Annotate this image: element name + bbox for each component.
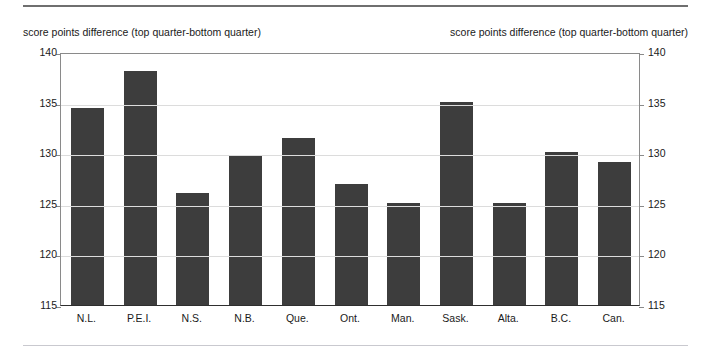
x-axis-label-can: Can. bbox=[587, 312, 640, 325]
y-axis-label-right-130: 130 bbox=[648, 148, 688, 159]
bar-pei bbox=[124, 71, 157, 305]
bar-sask bbox=[440, 102, 473, 305]
y-axis-label-left-135: 135 bbox=[17, 98, 57, 109]
bar-bc bbox=[545, 152, 578, 305]
y-axis-label-right-125: 125 bbox=[648, 199, 688, 210]
x-axis-label-nb: N.B. bbox=[218, 312, 271, 325]
tick-right-135 bbox=[639, 105, 644, 106]
y-axis-label-left-120: 120 bbox=[17, 249, 57, 260]
tick-right-140 bbox=[639, 54, 644, 55]
x-axis-label-bc: B.C. bbox=[535, 312, 588, 325]
y-axis-label-right-135: 135 bbox=[648, 98, 688, 109]
y-axis-label-left-140: 140 bbox=[17, 47, 57, 58]
y-axis-label-right-115: 115 bbox=[648, 300, 688, 311]
bar-nb bbox=[229, 156, 262, 305]
bar-can bbox=[598, 162, 631, 305]
x-axis-label-ns: N.S. bbox=[165, 312, 218, 325]
tick-right-130 bbox=[639, 155, 644, 156]
plot-area bbox=[60, 53, 640, 306]
y-axis-label-right-120: 120 bbox=[648, 249, 688, 260]
bottom-divider-rule bbox=[23, 345, 688, 346]
bar-man bbox=[387, 203, 420, 305]
gridline-135 bbox=[61, 105, 639, 106]
x-axis-label-alta: Alta. bbox=[482, 312, 535, 325]
tick-right-115 bbox=[639, 307, 644, 308]
tick-right-120 bbox=[639, 256, 644, 257]
y-axis-label-right-140: 140 bbox=[648, 47, 688, 58]
x-axis-label-ont: Ont. bbox=[324, 312, 377, 325]
gridline-125 bbox=[61, 206, 639, 207]
x-axis-label-sask: Sask. bbox=[429, 312, 482, 325]
bar-ns bbox=[176, 193, 209, 305]
y-axis-label-left-130: 130 bbox=[17, 148, 57, 159]
bar-ont bbox=[335, 184, 368, 305]
tick-right-125 bbox=[639, 206, 644, 207]
bar-que bbox=[282, 138, 315, 305]
x-axis-label-man: Man. bbox=[376, 312, 429, 325]
x-axis-label-nl: N.L. bbox=[60, 312, 113, 325]
y-axis-label-left-125: 125 bbox=[17, 199, 57, 210]
y-axis-label-left-115: 115 bbox=[17, 300, 57, 311]
bar-alta bbox=[493, 203, 526, 305]
x-axis-label-pei: P.E.I. bbox=[113, 312, 166, 325]
x-axis-label-que: Que. bbox=[271, 312, 324, 325]
gridline-130 bbox=[61, 155, 639, 156]
chart-page: score points difference (top quarter-bot… bbox=[0, 0, 711, 352]
plot-wrapper: 115115120120125125130130135135140140 bbox=[0, 0, 711, 352]
x-axis-labels: N.L.P.E.I.N.S.N.B.Que.Ont.Man.Sask.Alta.… bbox=[60, 312, 640, 328]
bar-series bbox=[61, 54, 639, 305]
gridline-120 bbox=[61, 256, 639, 257]
